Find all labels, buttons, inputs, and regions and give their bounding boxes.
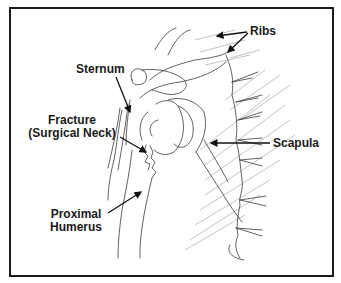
proximal-humerus-line2: Humerus [48,221,104,234]
acromion-outline [131,69,186,95]
label-arrows [108,32,270,213]
scapula-label: Scapula [273,137,319,150]
proximal-humerus-label: Proximal Humerus [48,208,104,234]
sternum-label: Sternum [76,63,125,76]
spine-outline [226,55,266,258]
ribs-arrow-upper [217,32,247,36]
sternum-arrow [116,77,130,112]
ribs-arrow-lower [228,33,248,52]
ribs-label: Ribs [250,25,276,38]
fracture-label: Fracture (Surgical Neck) [22,114,122,140]
fracture-label-line2: (Surgical Neck) [22,127,122,140]
